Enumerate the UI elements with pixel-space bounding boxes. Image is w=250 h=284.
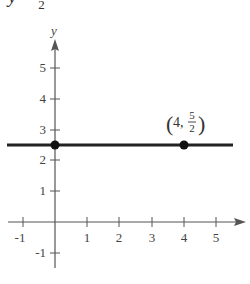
y-tick-label: 3 (40, 122, 47, 137)
chart-plot: y -1 1 2 3 4 5 5 4 3 2 1 -1 ( (0, 0, 250, 284)
x-tick-label: 3 (149, 230, 156, 245)
y-tick-label: 4 (40, 91, 47, 106)
x-tick-label: -1 (15, 230, 26, 245)
point-4-5-halves (180, 141, 189, 150)
point-label: ( 4, 5 2 ) (166, 109, 205, 136)
y-tick-labels: 5 4 3 2 1 -1 (35, 60, 46, 260)
y-tick-label: 5 (40, 60, 47, 75)
y-tick-label: 2 (40, 152, 47, 167)
x-tick-labels: -1 1 2 3 4 5 (15, 230, 220, 245)
point-0-5-halves (51, 141, 60, 150)
y-axis-label: y (49, 23, 57, 38)
x-tick-label: 1 (84, 230, 91, 245)
x-tick-label: 2 (116, 230, 123, 245)
point-label-denominator: 2 (189, 122, 195, 134)
point-label-x: 4, (173, 115, 184, 130)
close-paren: ) (198, 111, 205, 136)
x-tick-label: 4 (181, 230, 188, 245)
y-tick-label: 1 (40, 183, 47, 198)
x-tick-label: 5 (213, 230, 220, 245)
point-label-numerator: 5 (189, 109, 195, 121)
y-tick-label: -1 (35, 245, 46, 260)
